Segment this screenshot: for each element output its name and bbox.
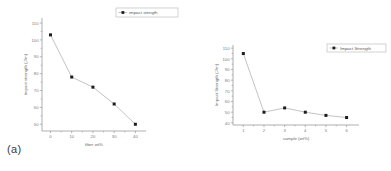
- chart-b-x-axis-title: sample (wt%): [283, 136, 310, 141]
- chart-a-data-point: [91, 86, 94, 89]
- chart-b-x-tick-label: 3: [283, 128, 286, 133]
- chart-a-y-ticks: 5060708090100110: [32, 21, 43, 127]
- chart-a-y-tick-label: 90: [34, 54, 39, 59]
- chart-a-data-point: [70, 76, 73, 79]
- chart-b-canvas: 405060708090100110123456sample (wt%)Impa…: [196, 0, 391, 171]
- chart-b-y-tick-label: 80: [225, 78, 230, 83]
- chart-a-y-tick-label: 80: [34, 71, 39, 76]
- chart-a-x-tick-label: 20: [91, 134, 96, 139]
- chart-b-x-tick-label: 1: [242, 128, 245, 133]
- chart-b-data-point: [324, 114, 327, 117]
- chart-b-x-tick-label: 5: [325, 128, 328, 133]
- chart-b-data-point: [262, 111, 265, 114]
- chart-b-data-point: [242, 52, 245, 55]
- chart-b-y-tick-label: 40: [225, 121, 230, 126]
- chart-b-data-points: [242, 52, 348, 119]
- chart-b-x-tick-label: 6: [345, 128, 348, 133]
- chart-a-x-tick-label: 10: [69, 134, 74, 139]
- chart-panel-b: 405060708090100110123456sample (wt%)Impa…: [196, 0, 391, 171]
- chart-a-canvas: 5060708090100110010203040fiber wt%impact…: [0, 0, 196, 171]
- chart-b-y-axis-title: Impact Strength (J/m): [214, 63, 219, 106]
- chart-b-y-tick-label: 100: [223, 57, 231, 62]
- chart-b-y-tick-label: 110: [223, 46, 230, 51]
- chart-b-y-ticks: 405060708090100110: [223, 46, 234, 126]
- chart-a-series-line: [50, 35, 135, 124]
- chart-a-y-axis-title: impact strength (J/m): [23, 53, 28, 95]
- chart-b-legend[interactable]: Impact Strength: [327, 44, 386, 52]
- chart-a-y-tick-label: 60: [34, 105, 39, 110]
- chart-b-data-point: [345, 116, 348, 119]
- panel-a-caption: (a): [7, 143, 21, 155]
- chart-a-legend-label: impact stength: [129, 10, 158, 15]
- chart-b-x-ticks: 123456: [242, 125, 348, 133]
- chart-b-data-point: [283, 106, 286, 109]
- chart-a-y-tick-label: 110: [32, 21, 39, 26]
- figure-root: 5060708090100110010203040fiber wt%impact…: [0, 0, 391, 171]
- chart-b-y-tick-label: 60: [225, 99, 230, 104]
- chart-b-y-tick-label: 50: [225, 110, 230, 115]
- chart-a-x-tick-label: 40: [133, 134, 138, 139]
- chart-b-legend-label: Impact Strength: [340, 46, 372, 51]
- chart-a-y-tick-label: 50: [34, 122, 39, 127]
- chart-a-y-tick-label: 70: [34, 88, 39, 93]
- chart-a-y-tick-label: 100: [32, 38, 40, 43]
- chart-a-legend[interactable]: impact stength: [116, 8, 178, 17]
- chart-a-x-axis-title: fiber wt%: [85, 142, 103, 147]
- chart-a-x-ticks: 010203040: [49, 131, 138, 139]
- chart-b-y-tick-label: 90: [225, 67, 230, 72]
- chart-b-series-line: [243, 54, 346, 118]
- chart-b-y-tick-label: 70: [225, 89, 230, 94]
- chart-a-data-point: [113, 103, 116, 106]
- chart-a-data-points: [49, 33, 137, 125]
- chart-b-data-point: [304, 111, 307, 114]
- chart-b-x-tick-label: 2: [263, 128, 266, 133]
- chart-panel-a: 5060708090100110010203040fiber wt%impact…: [0, 0, 196, 171]
- chart-b-x-tick-label: 4: [304, 128, 307, 133]
- chart-a-data-point: [49, 33, 52, 36]
- chart-a-x-tick-label: 0: [49, 134, 52, 139]
- chart-a-x-tick-label: 30: [112, 134, 117, 139]
- chart-a-data-point: [134, 123, 137, 126]
